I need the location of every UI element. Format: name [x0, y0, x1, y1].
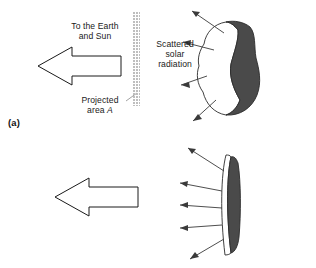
panel-b: Scattered solar radiation Lambertiansurf… [0, 134, 316, 268]
panel-tag-a: (a) [8, 117, 20, 128]
projected-area-symbol: A [107, 105, 113, 115]
panel-b-graphics [0, 134, 316, 268]
projected-area-line1: Projected [81, 95, 118, 105]
direction-arrow-b [55, 178, 138, 216]
panel-a: To the Earth and Sun Scattered solar rad… [0, 0, 316, 134]
projected-area-label-a: Projectedarea A [55, 95, 145, 115]
direction-arrow-a [38, 47, 121, 85]
figure-scattering-geometry: To the Earth and Sun Scattered solar rad… [0, 0, 316, 268]
direction-label-a: To the Earth and Sun [48, 21, 142, 41]
scattered-ray-heads-b [180, 148, 199, 259]
scattered-radiation-label-a: Scattered solar radiation [141, 39, 209, 70]
projected-area-line2: area [87, 105, 107, 115]
lambertian-rear-edge-b [228, 157, 241, 253]
